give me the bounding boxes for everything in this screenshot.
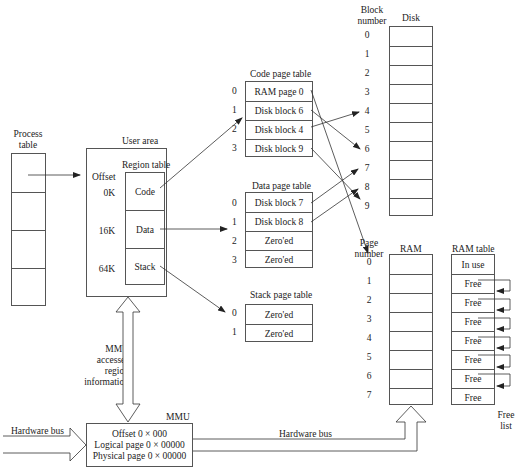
ram-table-row: Free — [452, 369, 494, 388]
hardware-bus-in-value: 0 × 00000000 — [13, 439, 66, 450]
mmu-offset: Offset 0 × 000 — [87, 429, 192, 440]
data-page-index: 1 — [232, 217, 237, 228]
disk-block — [390, 179, 432, 198]
ram-table-row: Free — [452, 293, 494, 312]
disk-block-number: 2 — [360, 68, 374, 79]
mmu-box: Offset 0 × 000 Logical page 0 × 00000 Ph… — [86, 423, 193, 467]
process-table-row — [12, 154, 45, 192]
mmu-logical-page: Logical page 0 × 00000 — [87, 440, 192, 451]
ram-page — [390, 369, 432, 388]
disk-block-number: 4 — [360, 106, 374, 117]
disk-block — [390, 160, 432, 179]
region-offset: 64K — [90, 264, 115, 275]
ram-page — [390, 331, 432, 350]
disk-block — [390, 27, 432, 46]
ram-page — [390, 388, 432, 407]
hardware-bus-in-label: Hardware bus — [11, 426, 64, 437]
data-page-row: Disk block 8 — [246, 212, 312, 231]
disk-block — [390, 46, 432, 65]
offset-header: Offset — [92, 172, 116, 183]
stack-page-index: 0 — [232, 308, 237, 319]
data-page-index: 3 — [232, 255, 237, 266]
ram-page-number: 6 — [362, 371, 376, 382]
data-page-index: 2 — [232, 236, 237, 247]
process-table-row — [12, 230, 45, 268]
code-page-row: Disk block 6 — [246, 101, 312, 120]
disk-block-number: 8 — [360, 182, 374, 193]
disk — [389, 26, 433, 216]
ram-table-row: Free — [452, 331, 494, 350]
ram-page-number: 5 — [362, 352, 376, 363]
process-table — [11, 153, 46, 306]
disk-block — [390, 103, 432, 122]
stack-page-row: Zero'ed — [246, 305, 312, 324]
disk-block — [390, 198, 432, 217]
ram-page — [390, 293, 432, 312]
ram-page — [390, 350, 432, 369]
process-table-title: Process table — [8, 129, 48, 151]
code-page-row: RAM page 0 — [246, 82, 312, 101]
code-page-row: Disk block 4 — [246, 120, 312, 139]
block-number-header: Block number — [355, 5, 389, 27]
region-offset: 16K — [90, 226, 115, 237]
code-page-index: 0 — [232, 86, 237, 97]
disk-block — [390, 122, 432, 141]
disk-block — [390, 141, 432, 160]
ram-table-row: Free — [452, 388, 494, 407]
region-row-stack: Stack — [126, 248, 164, 285]
ram-table-row: In use — [452, 255, 494, 274]
disk-block-number: 3 — [360, 87, 374, 98]
ram-page-number: 0 — [362, 257, 376, 268]
code-page-row: Disk block 9 — [246, 139, 312, 157]
mmu-title: MMU — [166, 412, 190, 423]
ram-page — [390, 255, 432, 274]
disk-block-number: 7 — [360, 163, 374, 174]
process-table-row — [12, 268, 45, 306]
ram-table-row: Free — [452, 312, 494, 331]
disk-block-4-arrow — [311, 112, 359, 127]
ram-page — [390, 274, 432, 293]
code-page-index: 2 — [232, 124, 237, 135]
mmu-access-label: MMU accesses region information — [80, 344, 129, 388]
disk-block — [390, 84, 432, 103]
disk-block-7-arrow — [311, 169, 358, 203]
disk-block-number: 1 — [360, 49, 374, 60]
ram — [389, 254, 433, 405]
disk-block-number: 0 — [360, 30, 374, 41]
region-row-code: Code — [126, 173, 164, 210]
stack-page-table: Zero'ed Zero'ed — [245, 304, 313, 342]
disk-block-number: 6 — [360, 144, 374, 155]
code-page-index: 3 — [232, 143, 237, 154]
code-page-index: 1 — [232, 105, 237, 116]
data-page-row: Disk block 7 — [246, 193, 312, 212]
ram-table-row: Free — [452, 274, 494, 293]
mmu-physical-page: Physical page 0 × 00000 — [87, 451, 192, 462]
user-area-title: User area — [122, 136, 158, 147]
free-list-label: Free list — [494, 410, 518, 432]
region-offset: 0K — [90, 188, 115, 199]
ram-page-number: 4 — [362, 333, 376, 344]
data-page-table-title: Data page table — [252, 181, 311, 192]
ram-table-row: Free — [452, 350, 494, 369]
ram-page-number: 3 — [362, 314, 376, 325]
data-page-table: Disk block 7 Disk block 8 Zero'ed Zero'e… — [245, 192, 313, 268]
hardware-bus-out-value: 0 × 00000000 — [280, 443, 333, 454]
ram-table: In useFreeFreeFreeFreeFreeFreeFree — [451, 254, 495, 405]
stack-page-table-title: Stack page table — [250, 290, 312, 301]
code-page-table: RAM page 0 Disk block 6 Disk block 4 Dis… — [245, 81, 313, 157]
data-page-row: Zero'ed — [246, 231, 312, 250]
disk-block-number: 9 — [360, 201, 374, 212]
disk-title: Disk — [402, 13, 420, 24]
disk-block-8-arrow — [311, 189, 358, 222]
region-row-data: Data — [126, 210, 164, 248]
process-table-row — [12, 192, 45, 230]
disk-block-9-arrow — [311, 148, 360, 199]
data-page-index: 0 — [232, 198, 237, 209]
disk-block-number: 5 — [360, 125, 374, 136]
disk-block — [390, 65, 432, 84]
ram-page-number: 2 — [362, 295, 376, 306]
ram-page — [390, 312, 432, 331]
stack-page-row: Zero'ed — [246, 324, 312, 342]
ram-page-number: 7 — [362, 390, 376, 401]
region-table: Code Data Stack — [125, 172, 165, 285]
